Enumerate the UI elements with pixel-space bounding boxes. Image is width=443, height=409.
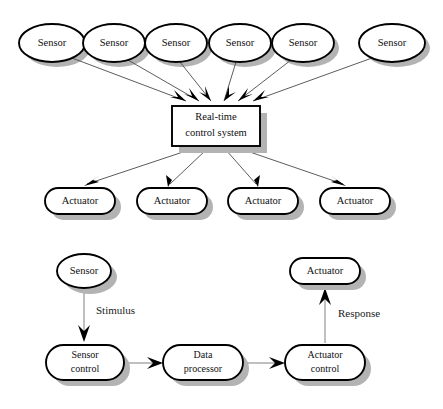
arrowhead-sensor5: [238, 88, 253, 101]
controller-label-line2: control system: [185, 127, 247, 138]
edge-controller-actuator2: [170, 150, 206, 184]
bottom-sensor-node[interactable]: Sensor: [57, 254, 111, 288]
actuator-label: Actuator: [337, 195, 374, 206]
sensor-node-4[interactable]: Sensor: [209, 24, 271, 62]
actuator-node-3[interactable]: Actuator: [228, 188, 298, 214]
sensor-label: Sensor: [162, 37, 191, 48]
edge-controller-actuator3: [226, 150, 256, 184]
actuator-label: Actuator: [245, 195, 282, 206]
sensor-control-label-line1: Sensor: [71, 349, 99, 360]
bottom-diagram-group: Stimulus Response Sensor: [46, 254, 380, 386]
sensor-node-5[interactable]: Sensor: [272, 24, 334, 62]
bottom-sensor-label: Sensor: [70, 265, 99, 276]
diagram-canvas: Sensor Sensor Sensor Sensor Sensor: [0, 0, 443, 409]
sensor-node-1[interactable]: Sensor: [19, 24, 85, 62]
sensor-label: Sensor: [289, 37, 318, 48]
sensor-node-2[interactable]: Sensor: [83, 24, 145, 62]
data-processor-label-line2: processor: [184, 363, 223, 374]
real-time-control-system-node[interactable]: Real-time control system: [172, 106, 267, 153]
sensor-label: Sensor: [38, 37, 67, 48]
data-processor-node[interactable]: Data processor: [163, 345, 243, 380]
diagram-root: Sensor Sensor Sensor Sensor Sensor: [0, 0, 443, 409]
bottom-actuator-label: Actuator: [307, 265, 344, 276]
actuator-control-node[interactable]: Actuator control: [285, 345, 365, 380]
actuator-nodes: Actuator Actuator Actuator Actuator: [45, 188, 390, 214]
controller-to-actuator-edges: [84, 150, 346, 187]
actuator-control-label-line2: control: [311, 363, 340, 374]
actuator-node-1[interactable]: Actuator: [45, 188, 115, 214]
sensor-control-label-line2: control: [71, 363, 100, 374]
arrowhead-sensor2: [184, 88, 199, 101]
stimulus-label: Stimulus: [96, 304, 135, 316]
response-label: Response: [338, 307, 380, 319]
bottom-actuator-node[interactable]: Actuator: [290, 258, 360, 284]
data-processor-label-line1: Data: [194, 349, 213, 360]
edge-controller-actuator1: [87, 150, 189, 184]
sensor-label: Sensor: [378, 37, 407, 48]
arrowhead-sensor6: [253, 90, 269, 101]
sensor-node-3[interactable]: Sensor: [145, 24, 207, 62]
sensor-control-node[interactable]: Sensor control: [46, 345, 124, 380]
actuator-label: Actuator: [154, 195, 191, 206]
actuator-node-2[interactable]: Actuator: [137, 188, 207, 214]
actuator-label: Actuator: [62, 195, 99, 206]
controller-label-line1: Real-time: [195, 111, 237, 122]
sensor-label: Sensor: [100, 37, 129, 48]
sensor-label: Sensor: [226, 37, 255, 48]
top-diagram-group: Sensor Sensor Sensor Sensor Sensor: [19, 24, 430, 220]
actuator-node-4[interactable]: Actuator: [320, 188, 390, 214]
actuator-control-label-line1: Actuator: [308, 349, 344, 360]
arrowhead-sensor4: [224, 86, 236, 101]
arrowhead-actuator3: [250, 173, 260, 187]
sensor-node-6[interactable]: Sensor: [359, 24, 425, 62]
